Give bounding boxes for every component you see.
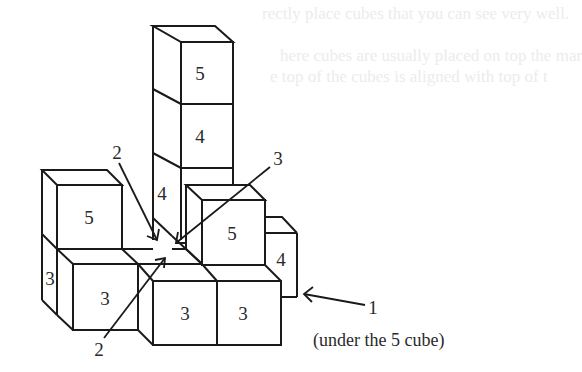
label-tall-middle: 4	[195, 126, 205, 147]
left-stack	[42, 170, 153, 330]
callout-3: 3	[273, 148, 283, 169]
callout-1-note: (under the 5 cube)	[313, 330, 444, 351]
label-center-front-left: 3	[180, 303, 190, 324]
label-right-side: 4	[276, 249, 286, 270]
label-left-top: 5	[84, 207, 94, 228]
label-left-front: 3	[100, 288, 110, 309]
callout-1: 1	[368, 297, 378, 318]
callout-2-bottom: 2	[94, 339, 104, 360]
label-right-top: 5	[227, 223, 237, 244]
label-left-side: 3	[45, 268, 55, 289]
label-center-front-right: 3	[238, 303, 248, 324]
label-tall-top: 5	[195, 63, 205, 84]
label-tall-side: 4	[157, 183, 167, 204]
callout-2-top: 2	[112, 142, 122, 163]
